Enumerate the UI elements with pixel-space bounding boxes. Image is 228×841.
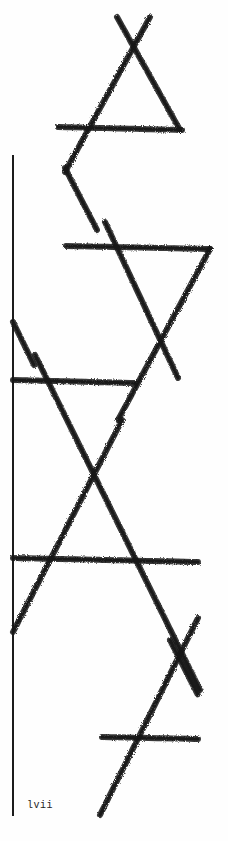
document-page: lvii (0, 0, 228, 841)
figure-strokes (13, 17, 210, 815)
page-number: lvii (27, 800, 53, 811)
crayon-stroke (13, 322, 34, 365)
crayon-stroke (13, 420, 122, 632)
crayon-stroke (100, 618, 198, 815)
crayon-stroke (35, 355, 200, 690)
crayon-stroke (65, 17, 150, 172)
crayon-triangle-figure (0, 0, 228, 841)
crayon-stroke (102, 737, 198, 739)
crayon-stroke (65, 168, 97, 230)
crayon-stroke (117, 17, 180, 130)
